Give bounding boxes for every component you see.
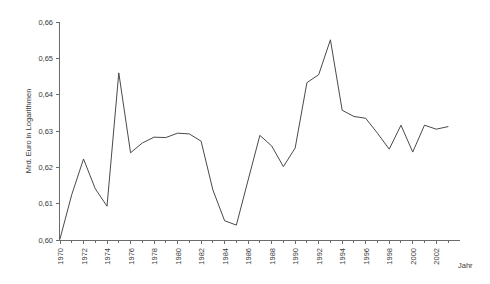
x-axis-title: Jahr [458,261,473,270]
x-axis-tick-label: 1980 [174,248,183,265]
x-axis-tick-label: 1986 [244,248,253,265]
y-axis-tick-label: 0,66 [38,18,53,27]
x-axis-tick-label: 1998 [385,248,394,265]
x-axis-tick-label: 1994 [338,248,347,265]
x-axis-tick-label: 1990 [291,248,300,265]
data-line-series [60,40,448,239]
chart-container: 0,600,610,620,630,640,650,66197019721974… [0,0,490,284]
x-axis-tick-label: 2002 [432,248,441,265]
y-axis-tick-label: 0,62 [38,163,53,172]
x-axis-tick-label: 1972 [80,248,89,265]
x-axis-tick-label: 1992 [315,248,324,265]
y-axis-tick-label: 0,61 [38,199,53,208]
x-axis-tick-label: 2000 [409,248,418,265]
y-axis-tick-label: 0,65 [38,54,53,63]
x-axis-tick-label: 1984 [221,248,230,265]
y-axis-tick-label: 0,64 [38,90,53,99]
x-axis-tick-label: 1976 [127,248,136,265]
y-axis-tick-label: 0,63 [38,127,53,136]
x-axis-tick-label: 1970 [56,248,65,265]
x-axis-tick-label: 1982 [197,248,206,265]
y-axis-title: Mrd. Euro in Logarithmen [24,89,33,174]
x-axis-tick-label: 1996 [362,248,371,265]
x-axis-tick-label: 1978 [150,248,159,265]
y-axis-tick-label: 0,60 [38,236,53,245]
x-axis-tick-label: 1988 [268,248,277,265]
line-chart: 0,600,610,620,630,640,650,66197019721974… [0,0,490,284]
x-axis-tick-label: 1974 [103,248,112,265]
